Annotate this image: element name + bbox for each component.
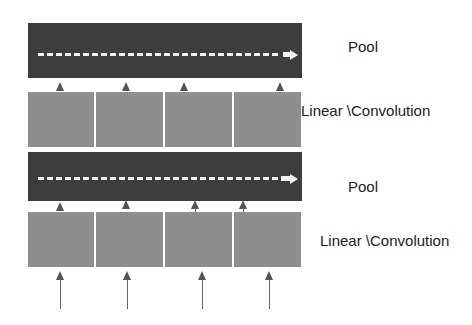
arrow-line <box>127 279 128 309</box>
up-arrow-icon <box>56 202 64 211</box>
pool-label-top: Pool <box>348 38 378 55</box>
linear-block <box>165 92 232 147</box>
arrow-line <box>202 279 203 309</box>
right-arrow-icon <box>290 174 298 184</box>
dashed-arrow <box>38 177 278 180</box>
linear-block <box>28 92 94 147</box>
linear-block <box>234 92 301 147</box>
linear-block <box>234 212 301 267</box>
linear-block <box>96 92 163 147</box>
linear-block <box>165 212 232 267</box>
up-arrow-icon <box>276 82 284 91</box>
dashed-arrow <box>38 53 278 56</box>
linear-label-bottom: Linear \Convolution <box>320 232 449 249</box>
up-arrow-icon <box>56 82 64 91</box>
linear-block <box>28 212 94 267</box>
pool-layer-top <box>28 23 302 78</box>
up-arrow-icon <box>122 200 130 209</box>
up-arrow-icon <box>122 82 130 91</box>
arrow-line <box>269 279 270 309</box>
linear-block <box>96 212 163 267</box>
up-arrow-icon <box>180 82 188 91</box>
linear-label-top: Linear \Convolution <box>301 102 430 119</box>
pool-layer-bottom <box>28 152 302 201</box>
arrow-line <box>60 279 61 309</box>
pool-label-bottom: Pool <box>348 178 378 195</box>
right-arrow-icon <box>290 50 298 60</box>
